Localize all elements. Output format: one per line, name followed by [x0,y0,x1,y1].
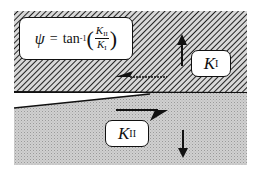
psi-symbol: ψ [35,30,45,48]
phase-angle-formula: ψ = tan-1 ( KII KI ) [19,17,133,60]
right-paren: ) [110,28,117,50]
equals-sign: = [50,31,58,47]
mode-one-label: KI [191,50,231,77]
inverse-exponent: -1 [80,34,87,43]
left-paren: ( [86,28,93,50]
mode-two-label: KII [105,120,149,147]
interface-line [14,92,247,93]
ratio-fraction: KII KI [95,25,109,53]
fraction-denominator: KI [97,39,107,52]
fraction-numerator: KII [95,25,109,39]
tan-function: tan [63,31,80,47]
